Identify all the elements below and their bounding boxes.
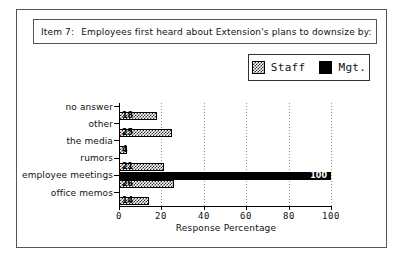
legend-label-mgt: Mgt. [338,61,366,74]
legend-swatch-staff-icon [252,61,265,74]
legend-swatch-mgt-icon [319,61,332,74]
title-item-number: Item 7: [41,27,74,37]
legend-entry-mgt: Mgt. [319,61,366,74]
figure-border [16,9,387,248]
legend-entry-staff: Staff [252,61,306,74]
chart-legend: Staff Mgt. [248,54,370,81]
title-question-text: Employees first heard about Extension's … [81,27,372,37]
chart-title-box: Item 7:Employees first heard about Exten… [33,19,377,44]
chart-figure: Item 7:Employees first heard about Exten… [0,0,403,261]
chart-title: Item 7:Employees first heard about Exten… [34,27,372,37]
legend-label-staff: Staff [271,61,306,74]
